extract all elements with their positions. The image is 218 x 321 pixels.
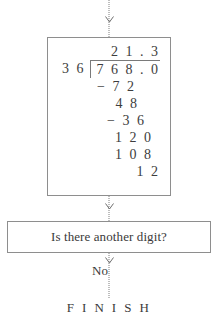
division-step-subtract-72: − 7 2 (48, 78, 170, 95)
division-process-box: 2 1 . 3 3 6 7 6 8 . 0 − 7 2 4 8 − 3 6 1 … (47, 37, 171, 196)
division-step-subtract-108: 1 0 8 (48, 146, 170, 163)
dividend-value: 7 6 8 . 0 (90, 60, 161, 78)
division-step-subtract-36: − 3 6 (48, 112, 170, 129)
decision-question: Is there another digit? (51, 229, 167, 245)
division-step-bring-down-120: 1 2 0 (48, 129, 170, 146)
branch-label-no: No (92, 263, 108, 279)
divisor-value: 3 6 (62, 60, 86, 77)
down-arrow-icon (105, 16, 114, 23)
quotient-value: 2 1 . 3 (48, 43, 170, 60)
long-division: 2 1 . 3 3 6 7 6 8 . 0 − 7 2 4 8 − 3 6 1 … (48, 43, 170, 180)
division-step-remainder-12: 1 2 (48, 163, 170, 180)
mid-connector (109, 196, 110, 221)
dividend-line: 3 6 7 6 8 . 0 (48, 60, 170, 78)
down-arrow-icon (105, 203, 114, 210)
division-step-remainder-48: 4 8 (48, 95, 170, 112)
top-connector (109, 0, 110, 37)
terminal-finish-label: F I N I S H (0, 300, 218, 316)
bottom-connector (109, 253, 110, 298)
decision-box: Is there another digit? (7, 221, 211, 253)
